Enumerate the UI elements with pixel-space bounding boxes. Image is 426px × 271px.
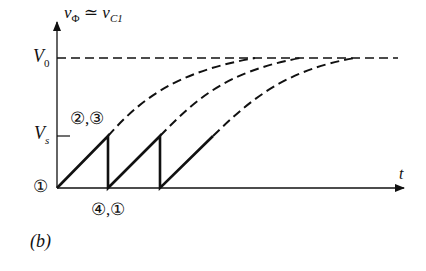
state-label-origin: ① [33, 176, 48, 197]
panel-label: (b) [30, 231, 51, 252]
v0-label: V0 [33, 46, 50, 69]
state-label-peak: ②,③ [70, 108, 104, 129]
y-sub2: C1 [110, 12, 123, 24]
vs-label: Vs [34, 123, 49, 146]
charging-curve-2 [160, 58, 300, 136]
approx-symbol: ≃ [84, 3, 98, 22]
state-label-reset: ④,① [91, 199, 125, 220]
v0-var: V [33, 46, 44, 66]
y-var: v [64, 3, 72, 22]
y-var2: v [102, 3, 110, 22]
y-sub: Φ [72, 12, 80, 24]
charging-curve-3 [213, 58, 355, 136]
vs-var: V [34, 123, 45, 143]
charging-curve-1 [108, 58, 255, 136]
vs-sub: s [45, 134, 49, 146]
sawtooth-waveform [57, 136, 213, 188]
waveform-diagram [0, 0, 426, 271]
v0-sub: 0 [44, 57, 50, 69]
y-axis-label: vΦ ≃ vC1 [64, 2, 123, 24]
x-axis-label: t [399, 165, 403, 183]
